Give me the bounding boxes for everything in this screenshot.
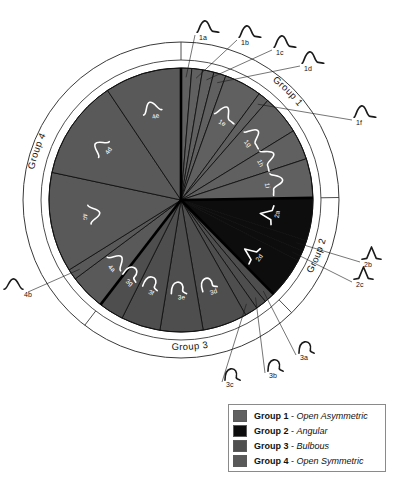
slice-label-1a: 1a [199, 34, 207, 41]
slice-marker-1c [274, 36, 296, 47]
slice-label-3c: 3c [226, 381, 234, 388]
slice-label-2b: 2b [364, 261, 372, 268]
legend-swatch-group2 [233, 425, 247, 437]
slice-marker-3b [268, 360, 283, 372]
waveform-glyph-2b [362, 247, 381, 259]
slice-marker-1b [239, 26, 261, 37]
waveform-glyph-1a [197, 21, 219, 32]
slice-marker-3c [225, 369, 240, 381]
slice-marker-1d [302, 52, 324, 63]
slice-label-3b: 3b [269, 372, 277, 379]
waveform-glyph-4b [4, 279, 23, 289]
legend-label-group3: Group 3 - Bulbous [254, 440, 329, 452]
slice-label-2a: 2a [273, 210, 281, 219]
legend-swatch-group1 [233, 410, 247, 422]
slice-label-1f: 1f [356, 119, 362, 126]
waveform-glyph-1d [302, 52, 324, 63]
slice-marker-2b [362, 247, 381, 259]
slice-marker-1f [354, 106, 376, 117]
waveform-glyph-1c [274, 36, 296, 47]
slice-label-1b: 1b [241, 39, 249, 46]
slice-label-2c: 2c [356, 281, 364, 288]
slice-label-4b: 4b [24, 291, 32, 298]
legend: Group 1 - Open Asymmetric Group 2 - Angu… [228, 404, 386, 472]
waveform-glyph-1f [354, 106, 376, 117]
slice-label-1c: 1c [276, 49, 284, 56]
legend-item: Group 3 - Bulbous [233, 439, 380, 453]
legend-item: Group 2 - Angular [233, 424, 380, 438]
waveform-glyph-3a [299, 342, 314, 354]
slice-label-3a: 3a [300, 354, 308, 361]
legend-label-group1: Group 1 - Open Asymmetric [254, 410, 368, 422]
legend-item: Group 4 - Open Symmetric [233, 454, 380, 468]
legend-item: Group 1 - Open Asymmetric [233, 409, 380, 423]
legend-label-group2: Group 2 - Angular [254, 425, 328, 437]
slice-marker-4b [4, 279, 23, 289]
waveform-glyph-3c [225, 369, 240, 381]
waveform-glyph-1b [239, 26, 261, 37]
slice-marker-2c [354, 267, 373, 279]
slice-label-1d: 1d [304, 65, 312, 72]
slice-label-3e: 3e [178, 293, 186, 300]
waveform-glyph-2c [354, 267, 373, 279]
legend-swatch-group4 [233, 455, 247, 467]
slice-marker-3a [299, 342, 314, 354]
legend-label-group4: Group 4 - Open Symmetric [254, 455, 364, 467]
legend-swatch-group3 [233, 440, 247, 452]
waveform-glyph-3b [268, 360, 283, 372]
slice-marker-1a [197, 21, 219, 32]
